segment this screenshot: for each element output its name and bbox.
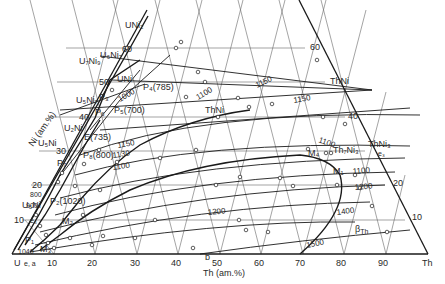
compound-u7ni9: U₇Ni₉: [79, 56, 101, 66]
beta-th-label: βTh: [355, 224, 368, 235]
point-p1: P₁: [25, 235, 34, 245]
right-tick-40: 40: [348, 111, 358, 121]
iso-1150-a: 1150: [254, 74, 274, 90]
point-p7: P₇: [57, 158, 66, 168]
tick-50: 50: [212, 258, 222, 268]
point-p8: P₈(800): [83, 150, 114, 160]
right-tick-60: 60: [310, 42, 320, 52]
left-tick-20: 20: [32, 180, 42, 190]
point-m4: M₄: [308, 148, 319, 158]
compound-uni2: UNi₂: [125, 20, 144, 30]
point-b-label: b: [205, 252, 210, 262]
corner-label-th: Th: [422, 258, 433, 268]
tick-80: 80: [336, 258, 346, 268]
left-tick-10: 10: [14, 215, 24, 225]
bottom-axis-ticks: U e, a 10 20 30 40 50 60 70 80 90 Th b T…: [14, 252, 433, 278]
left-tick-60: 60: [122, 44, 132, 54]
iso-800: 800: [30, 191, 42, 198]
iso-1130: 1130: [112, 149, 131, 160]
tick-20: 20: [87, 258, 97, 268]
point-p3: P₃: [99, 92, 109, 102]
compound-u5ni7: U₅Ni₇: [76, 95, 98, 105]
compound-u2ni: U₂Ni: [64, 123, 83, 133]
iso-1100-a: 1100: [195, 85, 215, 102]
iso-1200-a: 1200: [207, 206, 226, 217]
tick-60: 60: [254, 258, 264, 268]
point-m1: M₁: [333, 166, 344, 176]
compound-thni-mid: ThNi: [205, 105, 224, 115]
tick-30: 30: [130, 258, 140, 268]
point-m3: M₃: [40, 244, 51, 254]
iso-1100-c: 1100: [317, 135, 337, 150]
point-e735: E(735): [84, 132, 111, 142]
iso-1040: 1040: [18, 248, 34, 255]
compound-thni3: ThNi₃: [368, 139, 391, 149]
tick-90: 90: [378, 258, 388, 268]
compound-th7ni3: Th₇Ni₃: [333, 145, 359, 155]
iso-1200-b: 1200: [354, 181, 373, 192]
iso-1100-b: 1100: [112, 161, 131, 172]
left-tick-30: 30: [56, 146, 66, 156]
point-e4: e₄: [30, 217, 37, 224]
left-tick-50: 50: [99, 77, 109, 87]
x-axis-title: Th (am.%): [203, 268, 245, 278]
right-tick-10: 10: [412, 212, 422, 222]
compound-uni: UNi: [117, 74, 132, 84]
point-e3: e₃: [378, 150, 385, 157]
left-tick-40: 40: [79, 112, 89, 122]
point-p6: P₆: [95, 107, 105, 117]
compound-thni: ThNi: [330, 76, 349, 86]
u-phase-label: e, a: [24, 260, 36, 267]
right-tick-20: 20: [393, 178, 403, 188]
iso-1150-b: 1150: [293, 93, 312, 105]
iso-900: 900: [26, 202, 38, 209]
ternary-phase-diagram: U e, a 10 20 30 40 50 60 70 80 90 Th b T…: [0, 0, 445, 284]
compound-u6ni7-top: U₆Ni₇: [100, 50, 122, 60]
point-p4: P₄(785): [143, 82, 174, 92]
point-p5: P₅(700): [114, 105, 145, 115]
point-p2: P₂(1020): [50, 196, 86, 206]
iso-1100-d: 1100: [352, 165, 370, 176]
compound-u5ni: U₅Ni: [38, 138, 57, 148]
point-m2: M₂: [62, 216, 73, 226]
corner-label-u: U: [14, 258, 21, 268]
tick-70: 70: [295, 258, 305, 268]
iso-1500: 1500: [306, 237, 326, 250]
iso-1400: 1400: [336, 206, 355, 217]
tick-10: 10: [47, 258, 57, 268]
tick-40: 40: [171, 258, 181, 268]
